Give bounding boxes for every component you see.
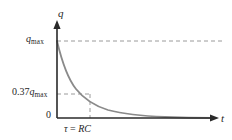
y-tick-qmax-subscript: max [31,38,44,46]
decay-curve [57,41,212,118]
tau-value-rc: RC [78,123,91,134]
y-tick-037-subscript: max [35,91,48,99]
origin-label: 0 [46,110,51,120]
y-tick-label-qmax: qmax [26,34,44,46]
tau-equals-sign: = [68,123,79,134]
y-tick-037-coefficient: 0.37 [12,86,30,97]
plot-canvas [0,0,232,140]
tau-label: τ = RC [64,124,91,134]
y-tick-label-037qmax: 0.37qmax [12,87,47,99]
x-axis-symbol-label: t [221,113,224,124]
discharge-graph-figure: q t qmax 0.37qmax 0 τ = RC [0,0,232,140]
y-axis-symbol-label: q [58,8,64,19]
x-axis-arrowhead-icon [210,114,219,121]
y-axis-arrowhead-icon [53,20,60,29]
